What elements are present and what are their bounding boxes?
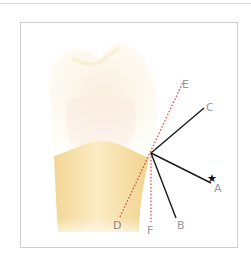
label-C: C xyxy=(206,101,214,114)
label-D: D xyxy=(113,219,121,232)
star-icon: ★ xyxy=(207,172,217,185)
line-A xyxy=(151,153,211,183)
line-B xyxy=(151,153,176,218)
crown-inner-shade xyxy=(66,95,136,145)
label-F: F xyxy=(147,224,153,237)
line-C xyxy=(151,108,204,153)
label-B: B xyxy=(177,219,185,232)
tooth-diagram: E C A B D F ★ xyxy=(0,0,251,263)
root-fade xyxy=(54,141,149,232)
label-E: E xyxy=(182,78,189,91)
